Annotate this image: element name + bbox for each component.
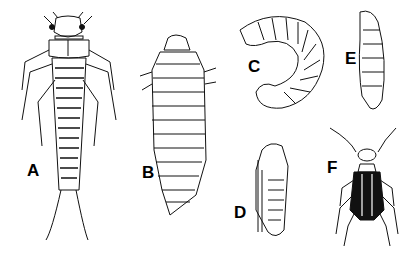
- panel-d-pupa: [256, 144, 288, 236]
- panel-label-c: C: [248, 58, 260, 75]
- panel-label-d: D: [234, 204, 246, 221]
- panel-label-e: E: [345, 50, 356, 67]
- insect-illustration: [0, 0, 413, 256]
- panel-e-larva: [359, 11, 384, 109]
- panel-f-beetle: [330, 128, 398, 246]
- panel-label-a: A: [27, 162, 39, 179]
- panel-label-b: B: [142, 164, 154, 181]
- panel-a-larva: [22, 12, 116, 240]
- panel-label-f: F: [327, 159, 337, 176]
- panel-b-larva: [140, 35, 216, 215]
